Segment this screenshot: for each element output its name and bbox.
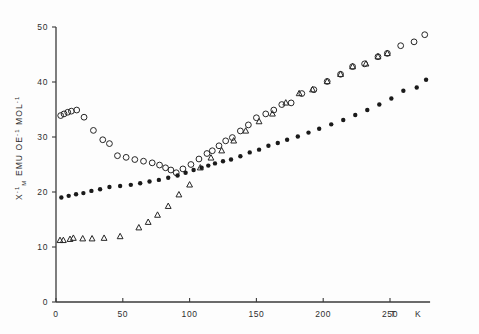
data-point-filled-circle — [191, 168, 195, 172]
data-point-open-circle — [65, 109, 71, 115]
data-point-filled-circle — [213, 161, 217, 165]
data-point-filled-circle — [248, 150, 252, 154]
y-tick-label: 0 — [43, 297, 48, 307]
x-tick-label: 200 — [315, 309, 331, 319]
tick-labels: 01020304050050100150200250 — [37, 22, 398, 319]
data-point-filled-circle — [238, 154, 242, 158]
data-point-open-circle — [115, 153, 121, 159]
axis-titles: TKX-1M EMU OE-1 MOL-1 — [14, 96, 422, 319]
data-point-open-circle — [100, 137, 106, 143]
data-point-open-triangle — [89, 236, 95, 241]
data-point-open-circle — [157, 162, 163, 168]
data-point-open-triangle — [101, 235, 107, 240]
axes — [56, 27, 430, 302]
data-point-filled-circle — [221, 159, 225, 163]
data-point-filled-circle — [341, 118, 345, 122]
y-tick-label: 40 — [37, 77, 48, 87]
data-point-filled-circle — [389, 96, 393, 100]
x-tick-label: 150 — [248, 309, 264, 319]
data-point-open-circle — [263, 111, 269, 117]
data-point-open-circle — [196, 156, 202, 162]
data-point-open-circle — [123, 154, 129, 160]
x-tick-label: 100 — [182, 309, 198, 319]
data-point-filled-circle — [183, 171, 187, 175]
data-point-open-triangle — [80, 236, 86, 241]
x-axis-unit-symbol: K — [415, 309, 421, 319]
data-point-filled-circle — [157, 178, 161, 182]
data-point-open-circle — [188, 162, 194, 168]
data-point-filled-circle — [229, 157, 233, 161]
data-points — [57, 32, 428, 243]
data-point-filled-circle — [206, 163, 210, 167]
data-point-filled-circle — [98, 187, 102, 191]
data-point-filled-circle — [107, 185, 111, 189]
y-tick-label: 10 — [37, 242, 48, 252]
data-point-open-triangle — [136, 225, 142, 230]
data-point-filled-circle — [257, 147, 261, 151]
figure-container: 01020304050050100150200250 TKX-1M EMU OE… — [0, 0, 479, 334]
data-point-open-circle — [209, 148, 215, 154]
data-point-filled-circle — [306, 130, 310, 134]
y-tick-label: 30 — [37, 132, 48, 142]
series-open-circles — [58, 32, 428, 176]
data-point-filled-circle — [118, 184, 122, 188]
data-point-filled-circle — [285, 138, 289, 142]
data-point-filled-circle — [353, 113, 357, 117]
x-axis-symbol: T — [390, 309, 396, 319]
data-point-filled-circle — [147, 179, 151, 183]
data-point-open-circle — [91, 127, 97, 133]
data-point-open-circle — [68, 108, 74, 114]
data-point-open-circle — [398, 43, 404, 49]
data-point-open-circle — [141, 158, 147, 164]
data-point-filled-circle — [317, 127, 321, 131]
data-point-filled-circle — [81, 191, 85, 195]
series-filled-circles — [59, 78, 428, 200]
data-point-open-triangle — [117, 233, 123, 238]
data-point-filled-circle — [424, 78, 428, 82]
data-point-filled-circle — [166, 176, 170, 180]
data-point-open-circle — [411, 39, 417, 45]
data-point-filled-circle — [365, 108, 369, 112]
scatter-plot: 01020304050050100150200250 TKX-1M EMU OE… — [0, 0, 479, 334]
y-axis-title-text: X-1M EMU OE-1 MOL-1 — [14, 96, 27, 200]
data-point-open-triangle — [187, 182, 193, 187]
data-point-filled-circle — [74, 192, 78, 196]
tick-marks — [52, 27, 390, 302]
data-point-filled-circle — [89, 189, 93, 193]
data-point-filled-circle — [329, 122, 333, 126]
data-point-open-circle — [81, 114, 87, 120]
data-point-filled-circle — [276, 141, 280, 145]
data-point-open-circle — [107, 141, 113, 147]
data-point-filled-circle — [401, 89, 405, 93]
data-point-filled-circle — [377, 102, 381, 106]
data-point-filled-circle — [266, 144, 270, 148]
data-point-filled-circle — [415, 85, 419, 89]
data-point-open-circle — [74, 107, 80, 113]
series-open-triangles — [57, 50, 390, 242]
data-point-open-triangle — [165, 203, 171, 208]
data-point-filled-circle — [129, 183, 133, 187]
data-point-open-triangle — [155, 212, 161, 217]
data-point-filled-circle — [138, 181, 142, 185]
data-point-open-triangle — [145, 219, 151, 224]
data-point-open-triangle — [176, 192, 182, 197]
x-tick-label: 0 — [53, 309, 58, 319]
data-point-open-circle — [223, 138, 229, 144]
y-tick-label: 50 — [37, 22, 48, 32]
data-point-open-circle — [245, 122, 251, 128]
data-point-filled-circle — [175, 173, 179, 177]
data-point-open-circle — [422, 32, 428, 38]
data-point-filled-circle — [296, 134, 300, 138]
data-point-open-circle — [132, 157, 138, 163]
y-tick-label: 20 — [37, 187, 48, 197]
x-tick-label: 50 — [117, 309, 128, 319]
data-point-open-circle — [149, 160, 155, 166]
data-point-filled-circle — [59, 195, 63, 199]
data-point-filled-circle — [66, 194, 70, 198]
